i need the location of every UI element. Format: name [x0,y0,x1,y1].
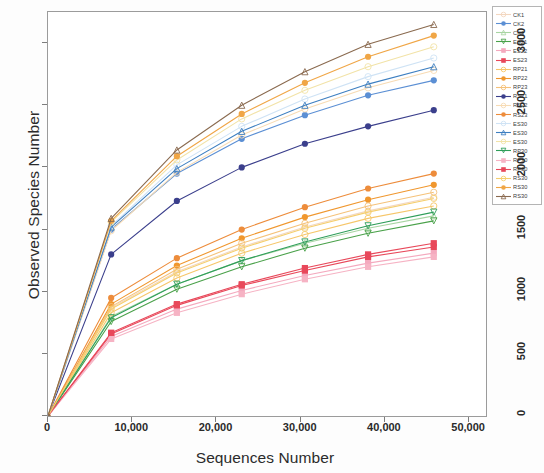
legend-marker-icon [495,128,512,137]
data-series [48,244,437,416]
y-tick-label: 3000 [498,34,544,46]
legend-item[interactable]: ES30 [494,128,540,137]
legend-item[interactable]: ES30 [494,119,540,128]
data-series [48,33,437,416]
y-tick-mark [42,42,47,43]
x-axis-title: Sequences Number [50,449,480,467]
legend-marker-icon [495,74,512,83]
legend-item[interactable]: ES30 [494,137,540,146]
curves-svg [48,12,486,416]
x-tick-mark [300,417,301,422]
data-series [48,21,437,416]
legend-marker-icon [495,19,512,28]
legend-marker-icon [495,119,512,128]
x-tick-mark [131,417,132,422]
x-tick-label: 20,000 [185,421,245,433]
legend-item-label: CK2 [513,20,524,26]
x-tick-mark [468,417,469,422]
legend-item[interactable]: ES23 [494,55,540,64]
x-tick-label: 10,000 [101,421,161,433]
y-tick-label: 2000 [498,158,544,170]
x-tick-mark [215,417,216,422]
y-tick-mark [42,166,47,167]
x-tick-label: 50,000 [438,421,498,433]
y-tick-label: 1000 [498,283,544,295]
x-tick-label: 30,000 [270,421,330,433]
legend-item[interactable]: RP22 [494,74,540,83]
legend-marker-icon [495,65,512,74]
legend-item-label: CK1 [513,11,524,17]
y-tick-mark [42,229,47,230]
legend-marker-icon [495,110,512,119]
legend-item[interactable]: RS30 [494,183,540,192]
x-tick-label: 40,000 [354,421,414,433]
y-tick-mark [42,104,47,105]
legend-item-label: ES30 [513,139,527,145]
legend-item-label: RP22 [513,75,528,81]
legend-marker-icon [495,146,512,155]
x-tick-mark [47,417,48,422]
legend-marker-icon [495,183,512,192]
legend-item-label: RS30 [513,184,528,190]
x-tick-label: 0 [17,421,77,433]
legend-item[interactable]: RS30 [494,192,540,201]
legend-item-label: RS30 [513,193,528,199]
legend-item[interactable]: CK1 [494,10,540,19]
legend-marker-icon [495,56,512,65]
y-tick-mark [42,291,47,292]
legend-marker-icon [495,10,512,19]
data-series [48,254,437,416]
y-axis-title: Observed Species Number [25,75,43,335]
legend-item[interactable]: RP21 [494,65,540,74]
legend-marker-icon [495,192,512,201]
rarefaction-curve-figure: Observed Species Number Sequences Number… [0,0,544,473]
legend-item-label: ES23 [513,57,527,63]
plot-area [47,11,487,417]
data-series [48,250,437,416]
y-tick-mark [42,353,47,354]
legend-marker-icon [495,174,512,183]
legend-item-label: RP21 [513,66,528,72]
legend-marker-icon [495,83,512,92]
legend-item-label: ES30 [513,130,527,136]
y-tick-label: 0 [498,407,544,419]
legend-marker-icon [495,137,512,146]
y-tick-label: 1500 [498,221,544,233]
y-tick-label: 2500 [498,96,544,108]
legend-marker-icon [495,46,512,55]
y-tick-label: 500 [498,345,544,357]
legend-item-label: ES30 [513,121,527,127]
y-tick-mark [42,415,47,416]
x-tick-mark [384,417,385,422]
